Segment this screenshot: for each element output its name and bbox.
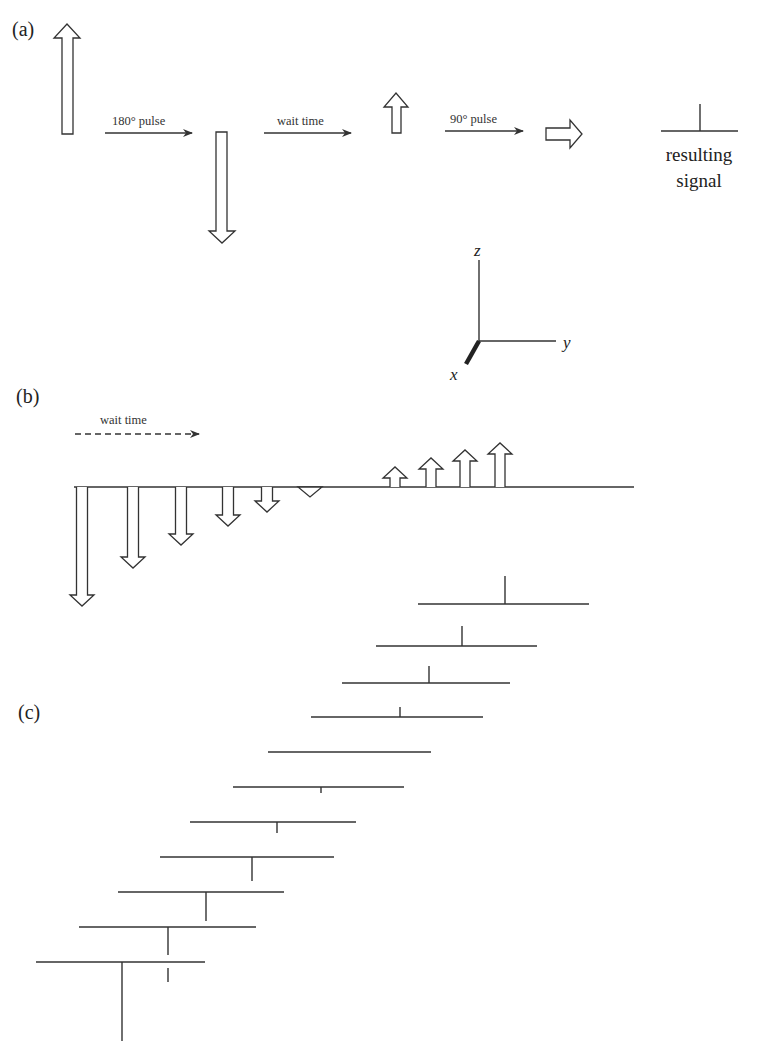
down-magnetization-arrow-icon xyxy=(298,487,322,497)
spectrum xyxy=(36,962,205,1041)
wait-time-label: wait time xyxy=(277,114,324,128)
spectrum xyxy=(79,927,256,955)
down-magnetization-arrow-icon xyxy=(70,487,94,606)
magnetization-up-arrow-icon xyxy=(54,24,80,134)
x-axis xyxy=(466,341,479,364)
wait-time-label-b: wait time xyxy=(100,413,147,427)
y-axis-label: y xyxy=(561,333,571,352)
recovered-up-arrow-icon xyxy=(384,93,408,133)
spectrum xyxy=(342,666,510,683)
up-magnetization-arrow-icon xyxy=(488,443,512,487)
down-magnetization-arrow-icon xyxy=(121,487,145,568)
coordinate-axes: z y x xyxy=(449,241,571,384)
spectrum xyxy=(190,822,356,833)
inversion-recovery-diagram: (a) 180° pulse wait time 90° pulse resul… xyxy=(0,0,760,1052)
panel-b: (b) wait time xyxy=(16,385,634,606)
spectra-stack xyxy=(36,576,589,1041)
magnetization-down-arrow-icon xyxy=(209,132,235,243)
pulse-90-label: 90° pulse xyxy=(450,112,497,126)
panel-a-label: (a) xyxy=(12,18,34,41)
recovery-arrows xyxy=(70,443,512,606)
spectrum xyxy=(233,787,404,793)
down-magnetization-arrow-icon xyxy=(255,487,279,512)
transverse-right-arrow-icon xyxy=(546,120,582,148)
up-magnetization-arrow-icon xyxy=(419,458,443,487)
pulse-180-label: 180° pulse xyxy=(112,114,166,128)
spectrum xyxy=(418,576,589,604)
down-magnetization-arrow-icon xyxy=(169,487,193,545)
x-axis-label: x xyxy=(449,365,458,384)
spectrum xyxy=(118,892,284,921)
result-label-line2: signal xyxy=(676,170,721,191)
result-label-line1: resulting xyxy=(666,144,733,165)
spectrum xyxy=(311,707,483,717)
down-magnetization-arrow-icon xyxy=(216,487,240,526)
up-magnetization-arrow-icon xyxy=(453,450,477,487)
panel-b-label: (b) xyxy=(16,385,39,408)
spectrum xyxy=(376,626,537,646)
z-axis-label: z xyxy=(473,241,481,260)
panel-c-label: (c) xyxy=(18,701,40,724)
panel-c: (c) xyxy=(18,576,589,1041)
spectrum xyxy=(160,857,334,881)
up-magnetization-arrow-icon xyxy=(383,467,407,487)
panel-a: (a) 180° pulse wait time 90° pulse resul… xyxy=(12,18,738,384)
